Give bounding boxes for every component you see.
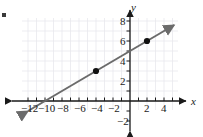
x-axis-tick-label: −6 [74, 103, 86, 114]
y-axis-tick-label: 2 [120, 76, 126, 87]
x-axis-label: x [191, 96, 196, 107]
x-axis-tick-label: −8 [57, 103, 69, 114]
x-axis-tick-label: −10 [38, 103, 55, 114]
data-point [93, 68, 99, 74]
y-axis-tick-label: 6 [120, 36, 126, 47]
plotted-line [28, 25, 174, 111]
x-axis-tick-label: −2 [108, 103, 120, 114]
graph-figure: −12−10−8−6−4−2248642−2 x y [0, 0, 203, 137]
x-axis-tick-label: 4 [161, 103, 167, 114]
x-axis-tick-label: 2 [144, 103, 150, 114]
y-axis-tick-label: −2 [117, 116, 129, 127]
y-axis-tick-label: 4 [120, 56, 126, 67]
x-axis-tick-label: −4 [91, 103, 103, 114]
data-point [144, 38, 150, 44]
x-axis-tick-label: −12 [21, 103, 38, 114]
grid-lines [22, 18, 178, 110]
y-axis-label: y [131, 2, 136, 13]
coordinate-plane-svg [0, 0, 203, 137]
y-axis-tick-label: 8 [120, 16, 126, 27]
